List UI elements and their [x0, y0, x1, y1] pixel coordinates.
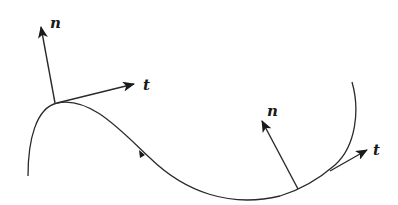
left-normal-vector [41, 27, 55, 103]
curve-diagram: n t n t [0, 0, 398, 205]
left-tangent-label: t [143, 76, 150, 94]
right-normal-vector [262, 121, 298, 189]
diagram-canvas: n t n t [0, 0, 398, 205]
left-normal-label: n [50, 14, 61, 32]
right-tangent-vector [330, 150, 367, 171]
curve [28, 82, 356, 200]
right-normal-label: n [267, 102, 278, 120]
right-tangent-label: t [373, 141, 380, 159]
left-tangent-vector [57, 84, 134, 103]
